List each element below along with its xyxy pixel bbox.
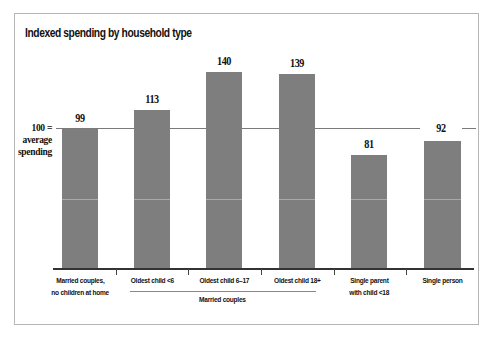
reference-label-line1: 100 = [4, 122, 52, 134]
bar-oldest-child-6-17 [206, 72, 242, 268]
plot-area: 100 = average spending 99 113 140 139 81… [0, 0, 489, 340]
value-label: 139 [272, 56, 323, 71]
value-label: 92 [416, 121, 467, 136]
bar-married-no-children [62, 129, 98, 268]
reference-label-line3: spending [4, 146, 52, 158]
category-label: Single person [400, 275, 484, 287]
category-label: Single parentwith child <18 [327, 275, 411, 299]
value-label: 140 [199, 54, 250, 69]
bar-oldest-child-under-6 [134, 110, 170, 268]
reference-label-line2: average [4, 134, 52, 146]
category-label: Oldest child 6–17 [182, 275, 266, 287]
group-label: Married couples [162, 295, 282, 304]
reference-label: 100 = average spending [4, 122, 52, 158]
bar-oldest-child-18-plus [279, 74, 315, 268]
value-label: 113 [127, 92, 178, 107]
value-label: 81 [344, 137, 395, 152]
value-label: 99 [55, 111, 106, 126]
group-bracket [130, 291, 316, 292]
bar-single-parent [351, 155, 387, 268]
bar-single-person [424, 141, 461, 268]
